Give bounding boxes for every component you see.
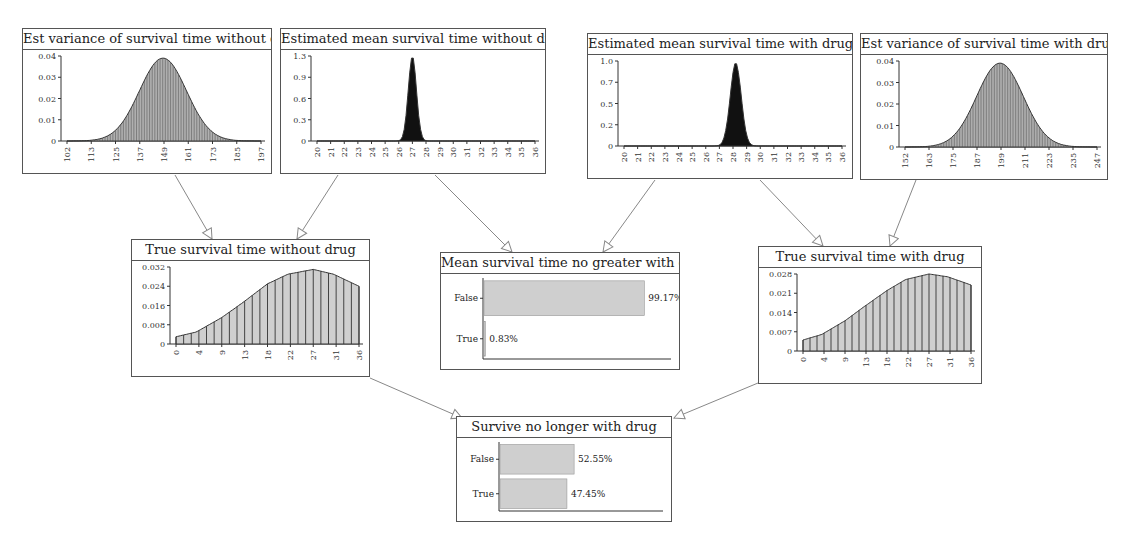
svg-text:20: 20 xyxy=(620,152,629,162)
svg-text:30: 30 xyxy=(756,152,765,162)
svg-text:137: 137 xyxy=(136,147,145,162)
svg-text:0: 0 xyxy=(172,350,181,355)
svg-text:36: 36 xyxy=(838,152,847,162)
node-true-without[interactable]: True survival time without drug0.0320.02… xyxy=(131,239,370,377)
svg-text:163: 163 xyxy=(925,153,934,168)
svg-text:113: 113 xyxy=(87,147,96,162)
svg-text:30: 30 xyxy=(449,147,458,157)
node-title: Estimated mean survival time without dru… xyxy=(281,29,545,50)
svg-text:33: 33 xyxy=(797,152,806,162)
state-label: False xyxy=(454,293,478,303)
node-title: Survive no longer with drug xyxy=(457,417,671,438)
svg-text:22: 22 xyxy=(340,147,349,157)
svg-text:25: 25 xyxy=(688,152,697,162)
svg-text:0.021: 0.021 xyxy=(769,289,792,298)
svg-text:125: 125 xyxy=(112,147,121,162)
svg-text:161: 161 xyxy=(184,147,193,162)
node-mean-with[interactable]: Estimated mean survival time with drug1.… xyxy=(587,33,853,179)
svg-text:27: 27 xyxy=(309,350,318,360)
svg-text:0.9: 0.9 xyxy=(293,73,306,82)
svg-text:27: 27 xyxy=(925,357,934,367)
svg-text:0.032: 0.032 xyxy=(142,263,165,272)
svg-text:29: 29 xyxy=(436,147,445,157)
svg-text:36: 36 xyxy=(355,350,364,360)
svg-text:0.01: 0.01 xyxy=(876,122,894,131)
svg-text:31: 31 xyxy=(770,152,779,162)
bar-true xyxy=(484,321,485,356)
node-survive-no-longer[interactable]: Survive no longer with drugFalse52.55%Tr… xyxy=(456,416,672,522)
svg-text:9: 9 xyxy=(218,350,227,355)
svg-text:27: 27 xyxy=(715,152,724,162)
svg-text:0.014: 0.014 xyxy=(769,309,792,318)
svg-text:22: 22 xyxy=(286,350,295,360)
density-plot: 1.00.70.50.20202122232425262728293031323… xyxy=(588,55,852,178)
svg-text:20: 20 xyxy=(313,147,322,157)
edge-arrow xyxy=(890,180,916,246)
state-label: True xyxy=(473,489,494,499)
edge-arrow xyxy=(760,180,823,246)
node-mean-no-greater[interactable]: Mean survival time no greater with drugF… xyxy=(440,252,680,370)
svg-text:26: 26 xyxy=(702,152,711,162)
svg-text:247: 247 xyxy=(1093,153,1102,168)
svg-text:0.7: 0.7 xyxy=(600,78,613,87)
svg-text:22: 22 xyxy=(904,357,913,367)
svg-text:18: 18 xyxy=(264,350,273,360)
svg-text:31: 31 xyxy=(946,357,955,367)
svg-text:33: 33 xyxy=(490,147,499,157)
edge-arrow xyxy=(435,175,512,252)
svg-text:22: 22 xyxy=(647,152,656,162)
svg-text:28: 28 xyxy=(729,152,738,162)
svg-text:0.02: 0.02 xyxy=(876,100,894,109)
svg-text:31: 31 xyxy=(332,350,341,360)
bar-chart: False52.55%True47.45% xyxy=(457,438,671,521)
node-var-without[interactable]: Est variance of survival time without dr… xyxy=(22,28,272,174)
edge-arrow xyxy=(175,175,212,239)
svg-text:34: 34 xyxy=(504,147,513,157)
node-title: Est variance of survival time without dr… xyxy=(23,29,271,50)
svg-text:0: 0 xyxy=(799,357,808,362)
svg-text:199: 199 xyxy=(997,153,1006,168)
svg-text:31: 31 xyxy=(463,147,472,157)
svg-text:0.04: 0.04 xyxy=(38,52,56,61)
svg-text:149: 149 xyxy=(160,147,169,162)
svg-text:0.03: 0.03 xyxy=(38,73,56,82)
svg-text:0: 0 xyxy=(787,347,792,356)
svg-text:4: 4 xyxy=(820,357,829,362)
node-true-with[interactable]: True survival time with drug0.0280.0210.… xyxy=(758,246,982,384)
svg-text:0.024: 0.024 xyxy=(142,282,165,291)
svg-text:1.0: 1.0 xyxy=(600,57,613,66)
svg-text:0: 0 xyxy=(160,340,165,349)
svg-text:35: 35 xyxy=(517,147,526,157)
svg-text:1.3: 1.3 xyxy=(293,52,306,61)
svg-text:0: 0 xyxy=(51,137,56,146)
svg-text:0: 0 xyxy=(301,137,306,146)
state-value: 47.45% xyxy=(571,489,606,499)
density-plot: 0.040.030.020.01015216317518719921122323… xyxy=(861,55,1107,179)
node-title: Mean survival time no greater with drug xyxy=(441,253,679,274)
state-label: True xyxy=(457,334,478,344)
svg-text:0.02: 0.02 xyxy=(38,95,56,104)
svg-text:35: 35 xyxy=(824,152,833,162)
svg-text:185: 185 xyxy=(233,147,242,162)
svg-text:197: 197 xyxy=(257,147,266,162)
bar-chart: False99.17%True0.83% xyxy=(441,274,679,369)
svg-text:13: 13 xyxy=(241,350,250,360)
svg-text:25: 25 xyxy=(381,147,390,157)
svg-text:0: 0 xyxy=(608,142,613,151)
state-value: 52.55% xyxy=(578,454,613,464)
bar-true xyxy=(500,479,567,509)
node-title: Est variance of survival time with drug xyxy=(861,34,1107,55)
node-var-with[interactable]: Est variance of survival time with drug0… xyxy=(860,33,1108,180)
density-plot: 0.040.030.020.01010211312513714916117318… xyxy=(23,50,271,173)
svg-text:23: 23 xyxy=(661,152,670,162)
svg-text:0.3: 0.3 xyxy=(293,116,306,125)
bar-false xyxy=(484,281,644,316)
density-plot: 1.30.90.60.30202122232425262728293031323… xyxy=(281,50,545,173)
svg-text:32: 32 xyxy=(477,147,486,157)
svg-text:36: 36 xyxy=(967,357,976,367)
svg-text:0.5: 0.5 xyxy=(600,100,613,109)
node-mean-without[interactable]: Estimated mean survival time without dru… xyxy=(280,28,546,174)
svg-text:23: 23 xyxy=(354,147,363,157)
svg-text:29: 29 xyxy=(743,152,752,162)
svg-text:21: 21 xyxy=(634,152,643,162)
